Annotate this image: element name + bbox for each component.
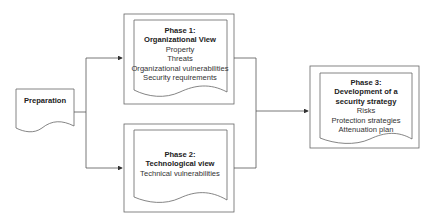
phase3-title-line2: Development of a (316, 87, 416, 96)
phase3-item: Risks (316, 106, 416, 115)
phase3-title-line3: security strategy (316, 97, 416, 106)
phase2-node: Phase 2: Technological view Technical vu… (130, 150, 230, 178)
edge-phase1-to-phase3 (234, 58, 256, 111)
edge-preparation-to-phase2 (86, 112, 122, 168)
phase3-item: Protection strategies (316, 116, 416, 125)
phase1-item: Property (130, 45, 230, 54)
phase1-item: Security requirements (130, 73, 230, 82)
phase1-title-line1: Phase 1: (130, 26, 230, 35)
phase2-title-line2: Technological view (130, 159, 230, 168)
phase3-title-line1: Phase 3: (316, 78, 416, 87)
preparation-title: Preparation (16, 96, 74, 105)
preparation-node: Preparation (16, 96, 74, 105)
phase1-item: Organizational vulnerabilities (130, 64, 230, 73)
phase2-item: Technical vulnerabilities (130, 169, 230, 178)
phase3-node: Phase 3: Development of a security strat… (316, 78, 416, 134)
edge-phase2-to-phase3 (234, 111, 308, 168)
phase3-item: Attenuation plan (316, 125, 416, 134)
edge-preparation-to-phase1 (74, 58, 122, 112)
phase1-title-line2: Organizational View (130, 35, 230, 44)
phase1-node: Phase 1: Organizational View Property Th… (130, 26, 230, 82)
phase2-title-line1: Phase 2: (130, 150, 230, 159)
phase1-item: Threats (130, 54, 230, 63)
